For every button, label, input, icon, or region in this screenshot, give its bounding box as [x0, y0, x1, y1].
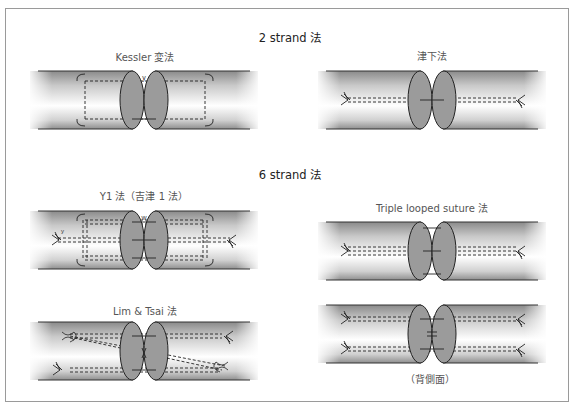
- svg-text:w: w: [140, 214, 147, 221]
- diagram-y1: w y: [30, 211, 258, 269]
- diagram-triple-looped-dorsal: [318, 305, 546, 363]
- diagram-tsuge: [318, 71, 546, 129]
- svg-text:y: y: [61, 228, 64, 234]
- diagram-lim-tsai: [30, 322, 258, 380]
- diagram-triple-looped: [318, 222, 546, 280]
- tendon-suture-diagrams: y: [0, 0, 578, 411]
- svg-text:y: y: [142, 74, 146, 82]
- diagram-kessler: y: [30, 71, 258, 129]
